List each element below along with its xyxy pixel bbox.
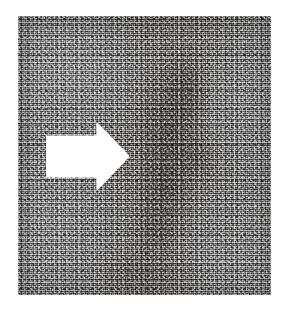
speckle-image-panel [18, 16, 271, 295]
vignette-layer [18, 16, 271, 295]
figure-root: Grayscale speckle micrograph with arrow … [0, 0, 288, 313]
